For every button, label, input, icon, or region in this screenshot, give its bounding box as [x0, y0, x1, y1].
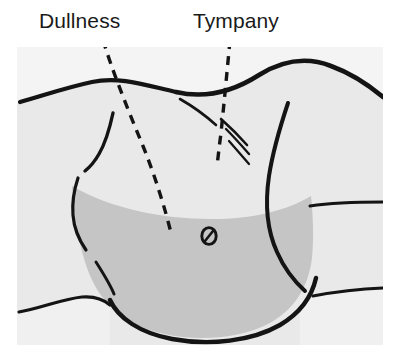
figure-container: Wlult Mnal lunt — [0, 0, 398, 363]
label-dullness: Dullness — [39, 10, 120, 31]
abdomen-illustration — [0, 0, 398, 363]
label-tympany: Tympany — [193, 10, 279, 31]
